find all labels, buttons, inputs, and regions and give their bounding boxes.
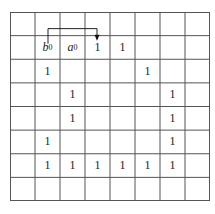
grid-cell-value: b0 xyxy=(35,36,60,60)
grid-cell-value: 1 xyxy=(160,107,185,131)
grid-cell-value: 1 xyxy=(160,154,185,178)
grid-cell-value: 1 xyxy=(60,107,85,131)
grid-cell-value: 1 xyxy=(110,154,135,178)
grid-cell-value: 1 xyxy=(135,154,160,178)
grid-cell-value: 1 xyxy=(60,154,85,178)
grid-cell-value: 1 xyxy=(85,36,110,60)
grid-cell-value: 1 xyxy=(160,130,185,154)
grid-cell-value: 1 xyxy=(35,154,60,178)
grid-cell-value: a0 xyxy=(60,36,85,60)
grid-cell-value: 1 xyxy=(110,36,135,60)
grid-cell-value: 1 xyxy=(60,83,85,107)
matrix-grid: b0a01111111111111111 xyxy=(10,12,210,201)
grid-cell-value: 1 xyxy=(160,83,185,107)
grid-cell-value: 1 xyxy=(135,59,160,83)
grid-cell-value: 1 xyxy=(85,154,110,178)
grid-cell-value: 1 xyxy=(35,59,60,83)
grid-cell-value: 1 xyxy=(35,130,60,154)
